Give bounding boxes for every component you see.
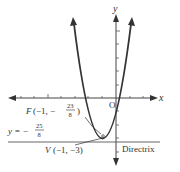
curve-arrow-right-icon xyxy=(128,17,135,26)
svg-text:8: 8 xyxy=(38,131,41,138)
svg-text:25: 25 xyxy=(36,122,43,129)
x-axis xyxy=(8,94,158,101)
svg-text:F: F xyxy=(25,106,32,116)
arrow-right-icon xyxy=(150,95,158,101)
svg-text:y = −: y = − xyxy=(7,126,29,136)
arrow-down-icon xyxy=(113,158,119,166)
y-axis xyxy=(113,14,120,166)
parabola-diagram: y x O F (−1, − 23 8 ) y = − 25 8 V (−1, … xyxy=(0,0,180,172)
arrow-left-icon xyxy=(8,95,16,101)
focus-label: F (−1, − 23 8 ) xyxy=(25,102,80,118)
origin-label: O xyxy=(109,100,116,110)
y-axis-label: y xyxy=(112,3,118,14)
focus-point xyxy=(102,135,105,138)
svg-text:23: 23 xyxy=(67,102,74,109)
directrix-equation-label: y = − 25 8 xyxy=(7,122,44,138)
svg-text:V: V xyxy=(45,145,52,155)
svg-text:8: 8 xyxy=(69,111,72,118)
arrow-up-icon xyxy=(113,14,119,22)
curve-arrow-left-icon xyxy=(70,17,77,26)
parabola-curve xyxy=(74,24,131,139)
svg-text:(−1, −: (−1, − xyxy=(33,106,55,116)
vertex-label: V (−1, −3) xyxy=(45,145,83,155)
svg-text:): ) xyxy=(77,106,80,116)
x-axis-label: x xyxy=(158,92,164,103)
directrix-label: Directrix xyxy=(122,144,155,154)
svg-text:(−1, −3): (−1, −3) xyxy=(53,145,83,155)
